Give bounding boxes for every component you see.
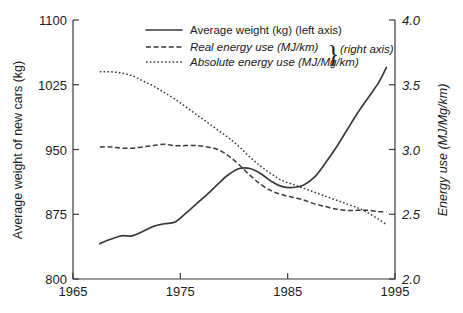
legend-brace-label: (right axis) bbox=[340, 43, 394, 55]
xtick-label-1975: 1975 bbox=[166, 284, 195, 299]
series-real-energy-use bbox=[100, 144, 387, 211]
xtick-label-1965: 1965 bbox=[59, 284, 88, 299]
legend-label-real-energy-use: Real energy use (MJ/km) bbox=[190, 41, 319, 53]
series-absolute-energy-use bbox=[100, 72, 387, 225]
legend-label-average-weight: Average weight (kg) (left axis) bbox=[190, 24, 342, 36]
right-axis-ticks bbox=[389, 20, 395, 279]
ytick-label-950: 950 bbox=[45, 143, 67, 158]
xtick-label-1995: 1995 bbox=[381, 284, 410, 299]
ytick-label-1100: 1100 bbox=[39, 13, 67, 28]
line-chart: 1100 1025 950 875 800 4.0 3.5 3.0 2.5 2.… bbox=[0, 0, 463, 313]
legend-brace: } bbox=[327, 39, 339, 68]
y-axis-title: Average weight of new cars (kg) bbox=[11, 61, 25, 239]
series-average-weight bbox=[100, 67, 387, 243]
right-axis-tick-labels: 4.0 3.5 3.0 2.5 2.0 bbox=[401, 13, 421, 287]
left-axis-tick-labels: 1100 1025 950 875 800 bbox=[38, 13, 67, 287]
x-axis-ticks bbox=[73, 273, 395, 279]
y2tick-label-3-5: 3.5 bbox=[402, 78, 421, 93]
y2tick-label-3-0: 3.0 bbox=[402, 143, 421, 158]
left-axis-ticks bbox=[73, 20, 79, 279]
ytick-label-875: 875 bbox=[45, 207, 67, 222]
x-axis-tick-labels: 1965 1975 1985 1995 bbox=[59, 284, 410, 299]
y2tick-label-2-5: 2.5 bbox=[401, 207, 421, 222]
y2tick-label-4-0: 4.0 bbox=[402, 13, 421, 28]
chart-legend: Average weight (kg) (left axis) Real ene… bbox=[146, 24, 394, 68]
ytick-label-1025: 1025 bbox=[38, 78, 67, 93]
chart-page: 1100 1025 950 875 800 4.0 3.5 3.0 2.5 2.… bbox=[0, 0, 463, 313]
y2-axis-title: Energy use (MJ/Mg/km) bbox=[436, 84, 450, 217]
xtick-label-1985: 1985 bbox=[273, 284, 302, 299]
